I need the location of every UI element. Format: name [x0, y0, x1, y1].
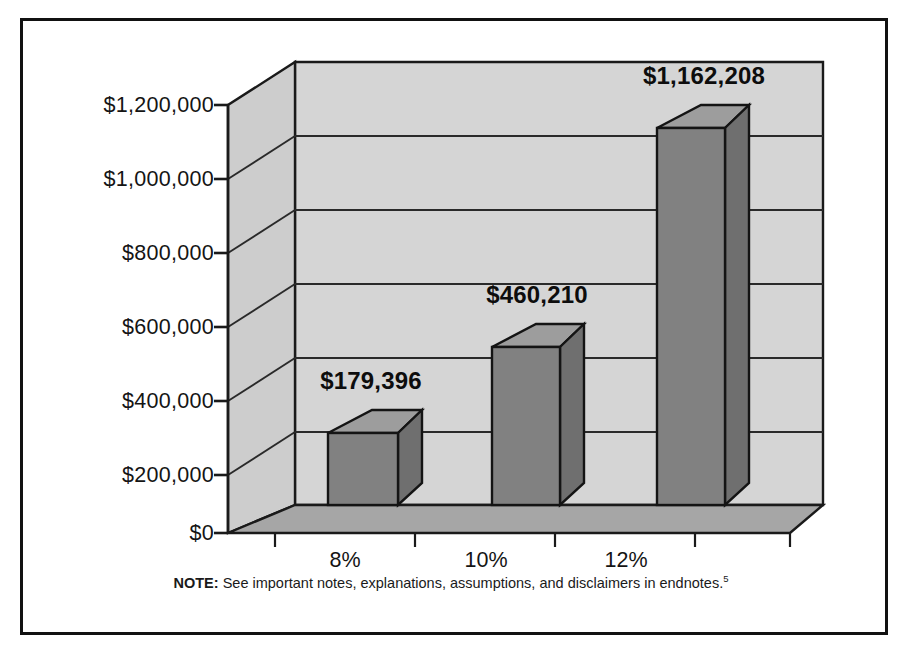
footnote-label: NOTE: — [174, 575, 219, 591]
chart-screenshot: $1,200,000 $1,000,000 $800,000 $600,000 … — [0, 0, 902, 656]
y-tick-label: $0 — [189, 521, 214, 546]
footnote-superscript: 5 — [723, 573, 728, 584]
bar-value-label-12-percent: $1,162,208 — [643, 62, 765, 90]
x-tick-label-8-percent: 8% — [329, 548, 360, 573]
bar-value-label-8-percent: $179,396 — [320, 367, 422, 395]
y-tick-label: $400,000 — [122, 389, 214, 414]
footnote: NOTE: See important notes, explanations,… — [0, 575, 902, 591]
y-tick-label: $200,000 — [122, 463, 214, 488]
bar-value-label-10-percent: $460,210 — [486, 281, 588, 309]
y-tick-label: $1,200,000 — [103, 93, 214, 118]
x-tick-label-12-percent: 12% — [604, 548, 647, 573]
y-tick-label: $1,000,000 — [103, 167, 214, 192]
y-tick-label: $600,000 — [122, 315, 214, 340]
footnote-text: See important notes, explanations, assum… — [219, 575, 724, 591]
y-tick-label: $800,000 — [122, 241, 214, 266]
x-tick-label-10-percent: 10% — [464, 548, 507, 573]
